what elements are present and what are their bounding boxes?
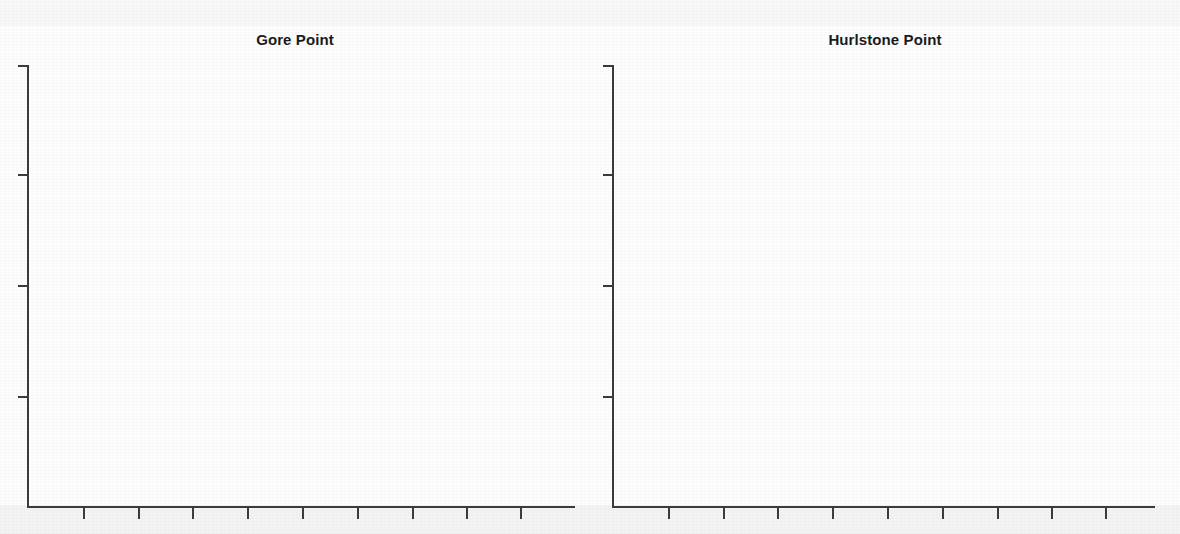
x-axis-tick bbox=[1105, 506, 1107, 519]
chart-title-hurlstone-point: Hurlstone Point bbox=[590, 31, 1180, 48]
y-axis-tick bbox=[603, 174, 614, 176]
x-axis-tick bbox=[466, 506, 468, 519]
x-axis-tick bbox=[302, 506, 304, 519]
y-axis-tick bbox=[603, 65, 614, 67]
y-axis-tick bbox=[18, 285, 29, 287]
chart-panel-hurlstone-point: Hurlstone Point bbox=[590, 0, 1180, 534]
chart-panel-gore-point: Gore Point bbox=[0, 0, 590, 534]
chart-title-gore-point: Gore Point bbox=[0, 31, 590, 48]
x-axis-tick bbox=[1051, 506, 1053, 519]
x-axis-tick bbox=[887, 506, 889, 519]
x-axis-tick bbox=[668, 506, 670, 519]
x-axis-tick bbox=[723, 506, 725, 519]
x-axis-tick bbox=[83, 506, 85, 519]
y-axis-tick bbox=[18, 174, 29, 176]
x-axis-tick bbox=[832, 506, 834, 519]
x-axis-tick bbox=[247, 506, 249, 519]
x-axis-tick bbox=[138, 506, 140, 519]
y-axis-tick bbox=[603, 285, 614, 287]
x-axis-tick bbox=[777, 506, 779, 519]
x-axis-line bbox=[27, 506, 575, 508]
y-axis-tick bbox=[18, 65, 29, 67]
x-axis-tick bbox=[942, 506, 944, 519]
y-axis-tick bbox=[18, 396, 29, 398]
x-axis-line bbox=[612, 506, 1155, 508]
x-axis-tick bbox=[192, 506, 194, 519]
y-axis-tick bbox=[603, 396, 614, 398]
x-axis-tick bbox=[520, 506, 522, 519]
x-axis-tick bbox=[412, 506, 414, 519]
x-axis-tick bbox=[357, 506, 359, 519]
x-axis-tick bbox=[997, 506, 999, 519]
